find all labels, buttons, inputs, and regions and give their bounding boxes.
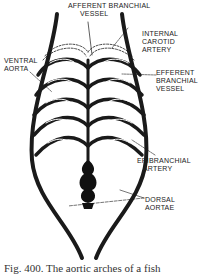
label-internal-carotid: INTERNALCAROTIDARTERY [142, 30, 178, 54]
label-text: ARTERY [137, 165, 172, 172]
heart-shape [80, 160, 97, 203]
label-dorsal-aortae: DORSALAORTAE [145, 196, 175, 212]
label-text: DORSAL [145, 196, 175, 203]
label-text: VESSEL [68, 10, 108, 17]
label-ventral-aorta: VENTRALAORTA [4, 57, 38, 73]
label-text: EFFERENT [156, 69, 195, 76]
label-text: VESSEL [156, 85, 184, 92]
label-text: BRANCHIAL [156, 77, 198, 84]
label-text: AFFERENT BRANCHIAL [68, 2, 150, 9]
label-text: EPIBRANCHIAL [137, 157, 191, 164]
figure-caption: Fig. 400. The aortic arches of a fish [4, 262, 161, 274]
label-text: AORTA [4, 65, 28, 72]
label-text: CAROTID [142, 38, 175, 45]
label-text: VENTRAL [4, 57, 38, 64]
label-afferent-branchial: AFFERENT BRANCHIALVESSEL [68, 2, 150, 18]
label-efferent-branchial: EFFERENTBRANCHIALVESSEL [156, 69, 198, 93]
label-text: ARTERY [142, 46, 171, 53]
label-epibranchial: EPIBRANCHIALARTERY [137, 157, 191, 173]
label-text: INTERNAL [142, 30, 178, 37]
label-text: AORTAE [145, 204, 174, 211]
